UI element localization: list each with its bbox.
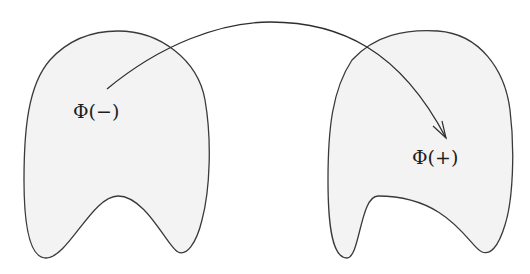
right-region-label: Φ(+) [412,148,458,167]
diagram-svg [0,0,530,274]
left-region-shape [24,31,209,258]
right-region-shape [328,31,513,258]
left-region-label: Φ(−) [73,102,119,121]
diagram-canvas: Φ(−) Φ(+) [0,0,530,274]
